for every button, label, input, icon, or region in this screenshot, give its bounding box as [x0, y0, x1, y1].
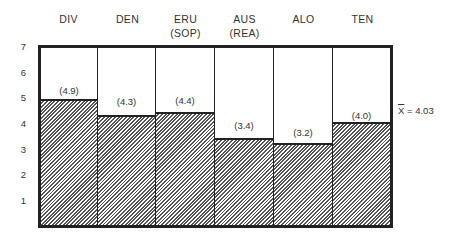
- y-tick-7: 7: [16, 41, 26, 52]
- category-label-div: DIV: [39, 12, 98, 26]
- y-tick-4: 4: [16, 118, 26, 129]
- category-label-line: DIV: [39, 12, 98, 26]
- category-label-subline: (SOP): [156, 26, 215, 40]
- category-label-line: AUS: [215, 12, 274, 26]
- mean-annotation: X = 4.03: [398, 105, 434, 116]
- category-label-line: ALO: [274, 12, 333, 26]
- category-label-eru: ERU (SOP): [156, 12, 215, 40]
- y-tick-1: 1: [16, 195, 26, 206]
- mean-value: = 4.03: [404, 105, 433, 116]
- category-label-aus: AUS (REA): [215, 12, 274, 40]
- category-label-subline: (REA): [215, 26, 274, 40]
- category-label-line: ERU: [156, 12, 215, 26]
- bar-chart: DIV DEN ERU (SOP) AUS (REA) ALO TEN 7 6 …: [0, 0, 458, 243]
- category-label-line: DEN: [98, 12, 157, 26]
- category-label-ten: TEN: [333, 12, 392, 26]
- category-label-line: TEN: [333, 12, 392, 26]
- category-label-alo: ALO: [274, 12, 333, 26]
- y-tick-5: 5: [16, 92, 26, 103]
- plot-frame: [38, 45, 393, 228]
- y-tick-2: 2: [16, 169, 26, 180]
- y-tick-3: 3: [16, 144, 26, 155]
- y-tick-6: 6: [16, 67, 26, 78]
- category-label-den: DEN: [98, 12, 157, 26]
